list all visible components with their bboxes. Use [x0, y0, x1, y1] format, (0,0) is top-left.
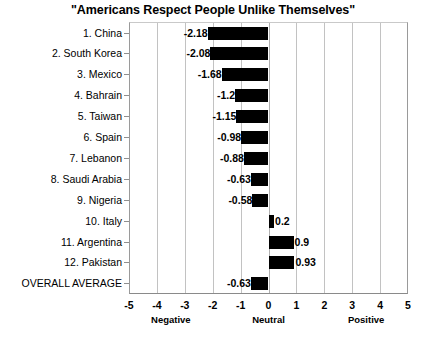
- bar: [241, 131, 268, 144]
- category-tick: [124, 221, 129, 222]
- category-label: 6. Spain: [0, 127, 122, 148]
- x-tick-label: 3: [338, 299, 366, 311]
- bar-row: 5. Taiwan-1.15: [0, 106, 426, 127]
- bar-value-label: -0.88: [154, 148, 244, 169]
- chart-title: "Americans Respect People Unlike Themsel…: [0, 3, 426, 17]
- bar-value-label: -1.68: [132, 64, 222, 85]
- bar-value-label: -2.08: [120, 43, 210, 64]
- axis-zone-label: Negative: [131, 314, 211, 325]
- bar: [222, 68, 269, 81]
- category-label: 12. Pakistan: [0, 252, 122, 273]
- category-tick: [124, 74, 129, 75]
- bar-value-label: -1.2: [145, 85, 235, 106]
- bar-value-label: -1.15: [146, 106, 236, 127]
- category-tick: [124, 137, 129, 138]
- bar-row: 2. South Korea-2.08: [0, 43, 426, 64]
- category-label: 5. Taiwan: [0, 106, 122, 127]
- bar-value-label: -0.98: [151, 127, 241, 148]
- x-tick-label: -2: [199, 299, 227, 311]
- x-tick-label: 2: [310, 299, 338, 311]
- bar-row: OVERALL AVERAGE-0.63: [0, 273, 426, 294]
- x-tick-label: -4: [143, 299, 171, 311]
- category-label: 2. South Korea: [0, 43, 122, 64]
- bar-row: 1. China-2.18: [0, 23, 426, 44]
- bar: [251, 173, 269, 186]
- category-tick: [124, 200, 129, 201]
- bar-value-label: -2.18: [118, 23, 208, 44]
- category-label: 8. Saudi Arabia: [0, 169, 122, 190]
- axis-zone-label: Positive: [326, 314, 406, 325]
- bar: [269, 215, 275, 228]
- bar-value-label: 0.9: [295, 232, 385, 253]
- bar-chart: "Americans Respect People Unlike Themsel…: [0, 0, 426, 340]
- category-tick: [124, 242, 129, 243]
- axis-zone-label: Neutral: [229, 314, 309, 325]
- bar-row: 9. Nigeria-0.58: [0, 190, 426, 211]
- category-label: 9. Nigeria: [0, 190, 122, 211]
- bar-row: 4. Bahrain-1.2: [0, 85, 426, 106]
- bar: [252, 194, 268, 207]
- category-tick: [124, 116, 129, 117]
- category-label: 3. Mexico: [0, 64, 122, 85]
- x-tick-label: 4: [366, 299, 394, 311]
- bar-value-label: -0.58: [162, 190, 252, 211]
- bar: [210, 47, 268, 60]
- bar: [251, 277, 269, 290]
- bar-row: 8. Saudi Arabia-0.63: [0, 169, 426, 190]
- category-label: 1. China: [0, 23, 122, 44]
- bar: [235, 89, 268, 102]
- category-label: OVERALL AVERAGE: [0, 273, 122, 294]
- bar-row: 7. Lebanon-0.88: [0, 148, 426, 169]
- bar-row: 11. Argentina0.9: [0, 232, 426, 253]
- category-label: 4. Bahrain: [0, 85, 122, 106]
- bar: [236, 110, 268, 123]
- bar-row: 10. Italy0.2: [0, 211, 426, 232]
- category-tick: [124, 262, 129, 263]
- bar: [244, 152, 269, 165]
- x-tick-label: -5: [115, 299, 143, 311]
- x-tick-label: -1: [227, 299, 255, 311]
- bar: [208, 27, 269, 40]
- category-tick: [124, 283, 129, 284]
- category-tick: [124, 158, 129, 159]
- bar-row: 12. Pakistan0.93: [0, 252, 426, 273]
- bar-value-label: 0.93: [295, 252, 385, 273]
- category-label: 11. Argentina: [0, 232, 122, 253]
- bar-value-label: -0.63: [161, 273, 251, 294]
- bar-value-label: 0.2: [275, 211, 365, 232]
- bar: [269, 236, 294, 249]
- bar: [269, 256, 295, 269]
- bar-row: 3. Mexico-1.68: [0, 64, 426, 85]
- bar-value-label: -0.63: [161, 169, 251, 190]
- category-tick: [124, 179, 129, 180]
- category-tick: [124, 95, 129, 96]
- x-tick-label: 5: [394, 299, 422, 311]
- category-label: 7. Lebanon: [0, 148, 122, 169]
- category-label: 10. Italy: [0, 211, 122, 232]
- bar-row: 6. Spain-0.98: [0, 127, 426, 148]
- x-tick-label: -3: [171, 299, 199, 311]
- x-tick-label: 1: [282, 299, 310, 311]
- x-tick-label: 0: [255, 299, 283, 311]
